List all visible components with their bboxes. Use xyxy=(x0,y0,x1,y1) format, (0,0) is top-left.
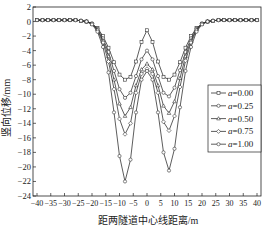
x-tick-label: 40 xyxy=(253,199,261,208)
x-tick-label: 10 xyxy=(171,199,179,208)
x-tick-label: −35 xyxy=(44,199,57,208)
y-tick-label: −10 xyxy=(18,89,31,99)
x-tick-label: 5 xyxy=(159,199,163,208)
x-tick-label: −10 xyxy=(113,199,126,208)
x-tick-label: −5 xyxy=(129,199,138,208)
y-tick-label: −22 xyxy=(18,176,31,186)
y-tick-label: 2 xyxy=(27,2,31,12)
x-axis-label: 距两隧道中心线距离/m xyxy=(98,214,199,226)
y-tick-label: 0 xyxy=(27,17,31,27)
legend-label: a=0.50 xyxy=(228,114,254,124)
x-tick-label: 30 xyxy=(226,199,234,208)
x-axis-ticks: −40−35−30−25−20−15−10−50510152025303540 xyxy=(31,193,261,208)
x-tick-label: −30 xyxy=(58,199,71,208)
y-tick-label: −16 xyxy=(18,133,31,143)
y-tick-label: −18 xyxy=(18,147,31,157)
x-tick-label: −25 xyxy=(72,199,85,208)
y-tick-label: −2 xyxy=(22,31,31,41)
x-tick-label: 0 xyxy=(145,199,149,208)
legend: a=0.00a=0.25a=0.50a=0.75a=1.00 xyxy=(208,85,261,152)
x-tick-label: 20 xyxy=(198,199,206,208)
displacement-chart: 20−2−4−6−8−10−12−14−16−18−20−22−24 −40−3… xyxy=(0,0,265,230)
legend-label: a=0.75 xyxy=(228,126,254,136)
y-axis-label: 竖向位移/mm xyxy=(0,79,12,138)
legend-label: a=0.00 xyxy=(228,88,254,98)
y-tick-label: −8 xyxy=(22,75,31,85)
y-tick-label: −6 xyxy=(22,60,31,70)
y-tick-label: −20 xyxy=(18,162,31,172)
x-tick-label: −40 xyxy=(31,199,44,208)
x-tick-label: −15 xyxy=(99,199,112,208)
y-tick-label: −24 xyxy=(18,191,32,201)
y-tick-label: −14 xyxy=(18,118,32,128)
legend-label: a=1.00 xyxy=(228,139,254,149)
legend-label: a=0.25 xyxy=(228,101,254,111)
x-tick-label: 15 xyxy=(184,199,192,208)
x-tick-label: 35 xyxy=(239,199,247,208)
x-tick-label: 25 xyxy=(212,199,220,208)
x-tick-label: −20 xyxy=(86,199,99,208)
y-tick-label: −12 xyxy=(18,104,31,114)
y-tick-label: −4 xyxy=(22,46,32,56)
